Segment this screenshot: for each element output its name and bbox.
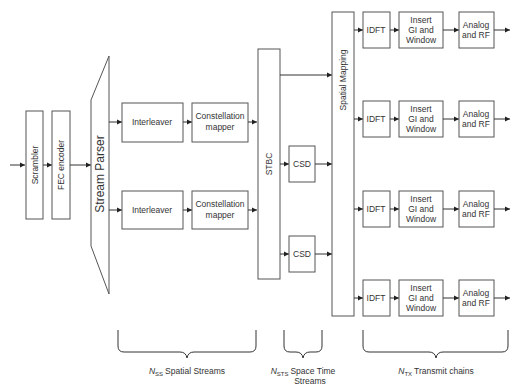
transmit-chain-4: IDFT Insert GI and Window Analog and RF bbox=[354, 280, 510, 316]
constellation-label: mapper bbox=[206, 210, 235, 220]
label-spatial-streams: NSSSpatial Streams bbox=[149, 366, 225, 377]
insert-gi-label: Window bbox=[406, 35, 437, 45]
interleaver-block-1: Interleaver bbox=[122, 103, 183, 142]
insert-gi-label: Window bbox=[406, 303, 437, 313]
stream-parser-label: Stream Parser bbox=[93, 135, 107, 212]
interleaver-block-2: Interleaver bbox=[122, 191, 183, 229]
constellation-mapper-block-1: Constellation mapper bbox=[192, 103, 248, 142]
constellation-label: mapper bbox=[206, 122, 235, 132]
constellation-label: Constellation bbox=[195, 199, 244, 209]
csd-block-2: CSD bbox=[289, 236, 315, 272]
transmitter-diagram: Scrambler FEC encoder Stream Parser Inte… bbox=[0, 0, 521, 386]
insert-gi-label: Window bbox=[406, 124, 437, 134]
constellation-label: Constellation bbox=[195, 111, 244, 121]
constellation-mapper-block-2: Constellation mapper bbox=[192, 191, 248, 229]
insert-gi-label: GI and bbox=[408, 204, 434, 214]
label-space-time-streams-line2: Streams bbox=[294, 376, 326, 386]
scrambler-label: Scrambler bbox=[30, 145, 40, 184]
insert-gi-label: GI and bbox=[408, 114, 434, 124]
idft-label: IDFT bbox=[367, 25, 386, 35]
transmit-chain-1: IDFT Insert GI and Window Analog and RF bbox=[354, 12, 510, 48]
analog-rf-label: Analog bbox=[463, 288, 490, 298]
stbc-block: STBC bbox=[258, 49, 280, 279]
analog-rf-label: Analog bbox=[463, 199, 490, 209]
insert-gi-label: Insert bbox=[410, 15, 432, 25]
analog-rf-label: and RF bbox=[462, 209, 490, 219]
insert-gi-label: GI and bbox=[408, 293, 434, 303]
analog-rf-label: Analog bbox=[463, 20, 490, 30]
spatial-mapping-label: Spatial Mapping bbox=[338, 49, 348, 110]
interleaver-label: Interleaver bbox=[132, 117, 172, 127]
transmit-chain-2: IDFT Insert GI and Window Analog and RF bbox=[354, 101, 510, 137]
fec-encoder-label: FEC encoder bbox=[56, 140, 66, 190]
idft-label: IDFT bbox=[367, 204, 386, 214]
csd-block-1: CSD bbox=[289, 146, 315, 182]
idft-label: IDFT bbox=[367, 114, 386, 124]
insert-gi-label: Insert bbox=[410, 283, 432, 293]
spatial-mapping-block: Spatial Mapping bbox=[332, 12, 354, 316]
scrambler-block: Scrambler bbox=[26, 111, 43, 219]
analog-rf-label: and RF bbox=[462, 298, 490, 308]
insert-gi-label: Insert bbox=[410, 104, 432, 114]
stream-parser-block: Stream Parser bbox=[91, 56, 109, 294]
interleaver-label: Interleaver bbox=[132, 205, 172, 215]
analog-rf-label: Analog bbox=[463, 109, 490, 119]
brace-spatial-streams bbox=[118, 330, 256, 358]
brace-space-time-streams bbox=[284, 330, 322, 358]
analog-rf-label: and RF bbox=[462, 119, 490, 129]
insert-gi-label: Window bbox=[406, 214, 437, 224]
csd-label: CSD bbox=[293, 249, 311, 259]
idft-label: IDFT bbox=[367, 293, 386, 303]
csd-label: CSD bbox=[293, 159, 311, 169]
transmit-chain-3: IDFT Insert GI and Window Analog and RF bbox=[354, 191, 510, 227]
fec-encoder-block: FEC encoder bbox=[52, 111, 70, 219]
analog-rf-label: and RF bbox=[462, 30, 490, 40]
brace-transmit-chains bbox=[363, 330, 508, 358]
insert-gi-label: GI and bbox=[408, 25, 434, 35]
insert-gi-label: Insert bbox=[410, 194, 432, 204]
stbc-label: STBC bbox=[264, 153, 274, 176]
label-transmit-chains: NTXTransmit chains bbox=[398, 366, 474, 377]
